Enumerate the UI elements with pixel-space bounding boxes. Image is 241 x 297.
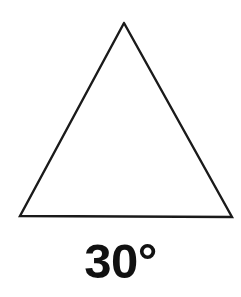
figure-canvas: 30° <box>0 0 241 297</box>
angle-label: 30° <box>0 236 241 286</box>
